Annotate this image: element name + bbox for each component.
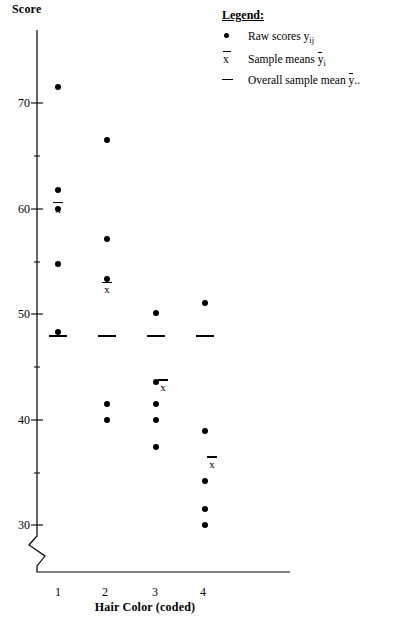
- legend-overall-var-overbar: y: [349, 74, 355, 86]
- y-tick-label-30: 30: [4, 518, 30, 533]
- x-tick-label-4: 4: [193, 585, 213, 600]
- group-mean-marker: x: [204, 456, 220, 469]
- data-point: [153, 417, 159, 423]
- data-point: [153, 401, 159, 407]
- legend-item-overall-mean: Overall sample mean y..: [222, 74, 412, 86]
- x-axis-title: Hair Color (coded): [0, 600, 290, 615]
- scatter-plot-canvas: Score 70 60 50 40 30 1 2 3 4 Hair Color …: [0, 0, 415, 622]
- legend-mean-sub: i: [323, 58, 325, 68]
- legend-overall-text: Overall sample mean: [248, 74, 349, 86]
- sample-mean-xbar-icon: x: [222, 51, 248, 65]
- legend-item-label: Overall sample mean y..: [248, 74, 412, 86]
- legend-item-label: Raw scores yij: [248, 30, 412, 42]
- data-point: [55, 329, 61, 335]
- data-point: [104, 137, 110, 143]
- data-point: [153, 444, 159, 450]
- legend-mean-text: Sample means: [248, 53, 318, 65]
- x-tick-label-3: 3: [145, 585, 165, 600]
- overall-mean-segment: [98, 335, 116, 337]
- x-tick-label-2: 2: [95, 585, 115, 600]
- overall-mean-dash-icon: [222, 74, 248, 86]
- legend-title: Legend:: [222, 8, 412, 23]
- legend-item-raw-scores: Raw scores yij: [222, 30, 412, 42]
- raw-score-dot-icon: [222, 30, 248, 42]
- overall-mean-segment: [147, 335, 165, 337]
- data-point: [202, 522, 208, 528]
- group-mean-marker: x: [99, 282, 115, 295]
- legend-item-sample-means: x Sample means yi: [222, 51, 412, 65]
- legend-raw-text: Raw scores: [248, 30, 304, 42]
- overall-mean-segment: [49, 335, 67, 337]
- y-tick-label-50: 50: [4, 307, 30, 322]
- legend-item-label: Sample means yi: [248, 53, 412, 65]
- data-point: [104, 417, 110, 423]
- y-tick-label-70: 70: [4, 96, 30, 111]
- data-point: [104, 401, 110, 407]
- legend-raw-sub: ij: [309, 35, 314, 45]
- data-point: [202, 478, 208, 484]
- legend: Legend: Raw scores yij x Sample means yi…: [222, 8, 412, 95]
- data-point: [55, 187, 61, 193]
- y-tick-label-60: 60: [4, 202, 30, 217]
- x-tick-label-1: 1: [48, 585, 68, 600]
- group-mean-marker: x: [155, 379, 171, 392]
- overall-mean-segment: [196, 335, 214, 337]
- data-point: [153, 310, 159, 316]
- legend-overall-sub: ..: [354, 74, 360, 86]
- y-tick-label-40: 40: [4, 413, 30, 428]
- group-mean-marker: x: [50, 202, 66, 215]
